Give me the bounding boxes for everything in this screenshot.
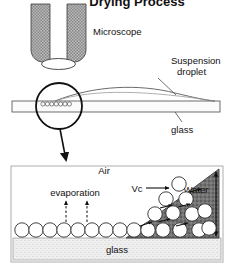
droplet-label-line1: Suspension: [171, 55, 221, 66]
figure-title: Drying Process: [89, 0, 184, 9]
objective-lens: [42, 59, 76, 70]
objective-wall-left: [31, 4, 50, 64]
vc-label: Vc: [131, 183, 142, 194]
microscope-objective: [31, 4, 86, 70]
glass-label-top: glass: [171, 124, 193, 135]
glass-label-detail: glass: [106, 244, 128, 255]
glass-leader-line-top: [175, 112, 182, 122]
microscope-label: Microscope: [93, 26, 142, 37]
droplet-leader-line: [158, 78, 176, 95]
detail-panel: glass Water Air evaporation Vc: [11, 165, 223, 262]
drying-process-figure: Drying Process Microscope Suspension dro…: [0, 0, 234, 273]
slide-and-droplet: [12, 87, 220, 112]
magnifier-connector-arrow: [60, 129, 66, 160]
air-label: Air: [98, 165, 110, 176]
objective-wall-right: [67, 4, 86, 64]
droplet-label-line2: droplet: [177, 66, 206, 77]
evaporation-label: evaporation: [50, 187, 100, 198]
